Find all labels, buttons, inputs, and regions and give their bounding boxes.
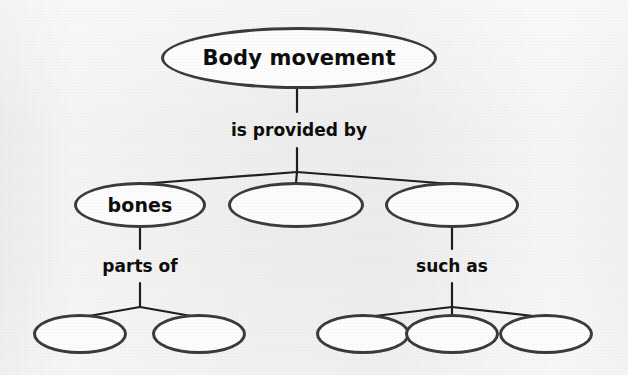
concept-map-diagram: Body movement bones is provided by parts… xyxy=(0,0,628,375)
node-blank-tier2-middle[interactable] xyxy=(228,182,364,228)
link-label-such-as: such as xyxy=(372,249,532,283)
edge-junction-to-n2c xyxy=(297,172,452,184)
node-body-movement[interactable]: Body movement xyxy=(161,27,437,89)
node-blank-tier3-5[interactable] xyxy=(499,314,593,354)
link-label-text: such as xyxy=(416,258,488,275)
link-label-is-provided-by: is provided by xyxy=(199,112,399,148)
node-label: bones xyxy=(108,196,173,215)
node-blank-tier2-right[interactable] xyxy=(385,182,519,228)
node-blank-tier3-3[interactable] xyxy=(316,314,410,354)
node-label: Body movement xyxy=(202,48,395,69)
node-blank-tier3-4[interactable] xyxy=(405,314,499,354)
link-label-text: parts of xyxy=(102,258,177,275)
link-label-parts-of: parts of xyxy=(60,249,220,283)
link-label-text: is provided by xyxy=(231,122,367,139)
node-blank-tier3-2[interactable] xyxy=(152,314,246,354)
node-blank-tier3-1[interactable] xyxy=(33,314,127,354)
node-bones[interactable]: bones xyxy=(74,182,206,228)
